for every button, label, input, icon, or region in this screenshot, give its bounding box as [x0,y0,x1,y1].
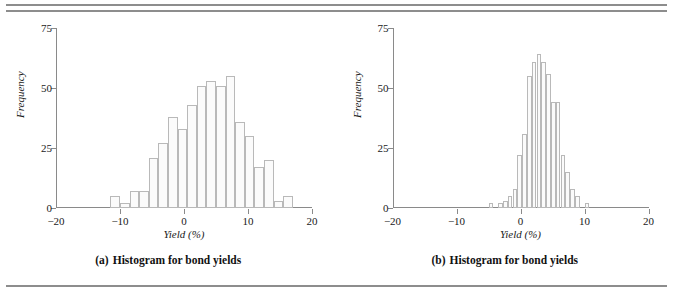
top-rule-lower [6,10,667,12]
y-tick-label: 50 [41,82,52,94]
histogram-bar [187,105,197,208]
x-tick-label: 0 [518,215,524,227]
histogram-bar [585,203,590,208]
y-tick-label: 25 [41,142,52,154]
histogram-bar [110,196,120,208]
figure-panels: Frequency 0255075 −20−1001020 Yield (%) … [0,16,673,284]
plot-area-a: 0255075 −20−1001020 [56,28,312,208]
y-tick-label: 75 [41,22,52,34]
x-tick-label: −10 [448,215,465,227]
histogram-bar [235,122,245,208]
x-tick-label: −20 [47,215,64,227]
histogram-bar [575,196,580,208]
histogram-bar [274,201,284,208]
x-tick-label: −10 [111,215,128,227]
histogram-bar [149,158,159,208]
histogram-bar [120,203,130,208]
panel-caption-b: (b)Histogram for bond yields [337,254,673,266]
histogram-bar [489,203,494,208]
histogram-bar [168,117,178,208]
x-tick-mark [585,209,586,214]
x-tick-label: 20 [643,215,654,227]
x-tick-label: 10 [579,215,590,227]
panel-caption-text-a: Histogram for bond yields [113,254,242,266]
x-tick-mark [521,209,522,214]
x-tick-mark [248,209,249,214]
x-tick-label: 20 [307,215,318,227]
x-tick-label: 10 [243,215,254,227]
x-tick-label: −20 [384,215,401,227]
histogram-bar [216,86,226,208]
figure-page: Frequency 0255075 −20−1001020 Yield (%) … [0,0,673,292]
panel-caption-tag-a: (a) [95,254,108,266]
panel-caption-tag-b: (b) [431,254,445,266]
x-tick-mark [649,209,650,214]
histogram-bars-b [393,28,649,208]
histogram-bar [139,191,149,208]
histogram-bar [254,167,264,208]
histogram-bar [283,196,293,208]
histogram-bar [206,81,216,208]
panel-caption-a: (a)Histogram for bond yields [0,254,337,266]
y-tick-label: 25 [378,142,389,154]
histogram-bar [197,86,207,208]
x-axis-label-a: Yield (%) [56,228,312,240]
histogram-bar [158,143,168,208]
panel-a: Frequency 0255075 −20−1001020 Yield (%) … [0,16,337,284]
histogram-bar [178,129,188,208]
panel-b: Frequency 0255075 −20−1001020 Yield (%) … [337,16,673,284]
x-tick-mark [120,209,121,214]
x-tick-mark [312,209,313,214]
histogram-bar [226,76,236,208]
y-axis-label-b: Frequency [351,71,363,118]
y-tick-label: 0 [47,202,53,214]
x-tick-label: 0 [181,215,187,227]
histogram-bar [245,136,255,208]
histogram-bars-a [56,28,312,208]
y-tick-label: 50 [378,82,389,94]
histogram-bar [264,160,274,208]
top-rule-upper [6,4,667,6]
y-tick-label: 0 [383,202,389,214]
x-axis-label-b: Yield (%) [393,228,649,240]
bottom-rule [6,285,667,287]
y-axis-label-a: Frequency [14,71,26,118]
x-tick-mark [184,209,185,214]
histogram-bar [130,191,140,208]
y-tick-label: 75 [378,22,389,34]
panel-caption-text-b: Histogram for bond yields [450,254,579,266]
plot-area-b: 0255075 −20−1001020 [393,28,649,208]
x-tick-mark [457,209,458,214]
